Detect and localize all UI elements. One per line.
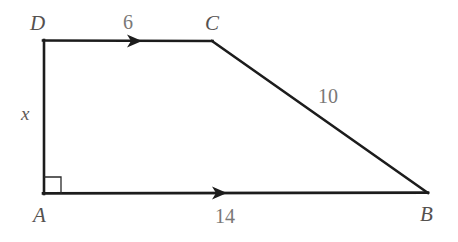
side-DC (43, 41, 213, 42)
side-AB (43, 193, 428, 194)
side-length-label-DA: x (21, 104, 29, 123)
vertex-label-C: C (205, 13, 219, 34)
vertex-label-A: A (33, 205, 46, 226)
right-angle-marker (44, 177, 61, 194)
side-length-label-AB: 14 (215, 206, 235, 226)
side-length-label-CB: 10 (318, 86, 338, 106)
diagram-canvas: D C B A 6 10 14 x (0, 0, 458, 242)
vertex-label-D: D (30, 13, 45, 34)
side-CB (212, 41, 428, 193)
side-length-label-DC: 6 (123, 12, 133, 32)
vertex-label-B: B (420, 204, 433, 225)
